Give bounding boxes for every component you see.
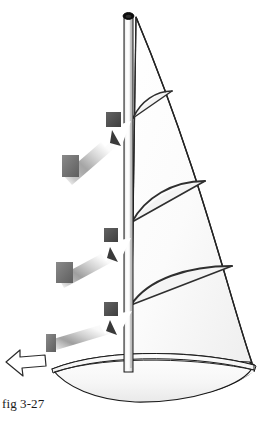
middle-wind-arrow-head-block: [104, 228, 118, 242]
middle-wind-arrow-tail-block: [56, 262, 73, 283]
mainsail-body: [131, 17, 252, 363]
lower-wind-arrow-head-block: [104, 302, 118, 316]
figure-container: fig 3-27: [0, 0, 279, 421]
middle-wind-arrow: [56, 228, 131, 288]
lower-wind-arrow-tail-block: [46, 334, 56, 352]
upper-wind-arrow-tail-block: [62, 155, 79, 177]
hull-group: [52, 353, 256, 402]
lower-wind-arrow: [46, 302, 132, 352]
sailboat-illustration: [0, 0, 279, 421]
figure-caption: fig 3-27: [2, 396, 44, 411]
boat-heading-arrow: [6, 350, 46, 376]
upper-wind-arrow: [62, 112, 131, 185]
upper-wind-arrow-head-block: [106, 112, 121, 127]
mainsail-group: [131, 17, 252, 363]
masthead-cap-inner: [126, 15, 132, 18]
